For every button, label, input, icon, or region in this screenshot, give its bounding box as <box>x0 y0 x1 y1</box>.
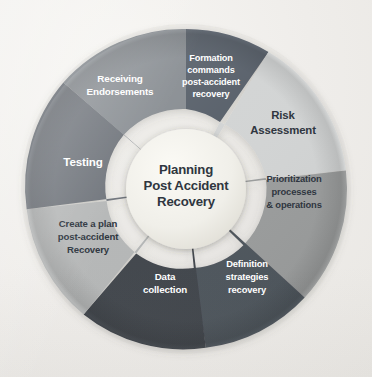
label-line: post-accident <box>58 231 119 242</box>
diagram-canvas: Planning Post Accident Recovery Formatio… <box>0 0 372 377</box>
label-line: Testing <box>63 155 102 168</box>
segment-label-prioritization-processes: Prioritization processes & operations <box>266 173 322 210</box>
label-line: Prioritization <box>266 173 322 184</box>
hub-line-2: Post Accident <box>144 178 230 193</box>
label-line: Risk <box>271 109 295 121</box>
label-line: strategies <box>226 271 269 282</box>
label-line: recovery <box>228 284 267 295</box>
label-line: Formation <box>189 53 233 63</box>
label-line: Assessment <box>250 124 316 136</box>
label-line: Create a plan <box>59 218 118 229</box>
label-line: post-accident <box>182 77 240 87</box>
label-line: Recovery <box>67 244 110 255</box>
label-line: recovery <box>192 89 230 99</box>
label-line: collection <box>143 284 187 295</box>
label-line: processes <box>271 186 316 197</box>
segment-label-definition-strategies: Definition strategies recovery <box>226 258 269 295</box>
label-line: Receiving <box>97 73 142 84</box>
hub-line-1: Planning <box>159 162 213 177</box>
label-line: commands <box>187 65 234 75</box>
label-line: Endorsements <box>87 86 154 97</box>
label-line: Definition <box>226 258 268 269</box>
pinwheel-diagram: Planning Post Accident Recovery Formatio… <box>0 0 372 377</box>
label-line: Data <box>155 271 176 282</box>
hub-line-3: Recovery <box>157 194 216 209</box>
label-line: & operations <box>266 199 322 210</box>
segment-label-testing: Testing <box>63 155 102 168</box>
